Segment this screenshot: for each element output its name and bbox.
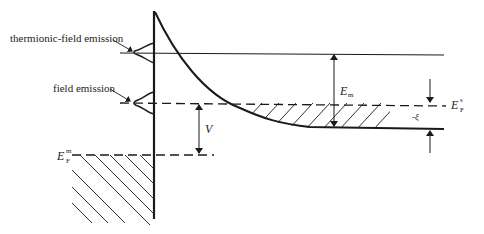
conduction-band-edge xyxy=(155,12,444,129)
xi-label: -ξ xyxy=(412,112,419,122)
thermionic-field-emission-label: thermionic-field emission xyxy=(10,32,124,44)
thermionic-level-line xyxy=(120,53,444,55)
svg-text:F: F xyxy=(460,106,464,114)
em-label: E m xyxy=(339,84,354,99)
v-label: V xyxy=(205,122,214,136)
svg-text:m: m xyxy=(348,91,354,99)
metal-filled-states-hatch xyxy=(72,155,210,225)
band-diagram: thermionic-field emission field emission… xyxy=(0,0,484,234)
svg-text:E: E xyxy=(450,98,459,112)
svg-text:E: E xyxy=(56,149,65,163)
field-emission-label: field emission xyxy=(53,82,116,94)
fermi-metal-label: E m F xyxy=(56,147,72,165)
svg-text:m: m xyxy=(66,147,72,155)
svg-text:s: s xyxy=(460,96,463,104)
svg-text:F: F xyxy=(66,157,70,165)
fermi-level-semiconductor-line xyxy=(120,103,446,106)
svg-text:E: E xyxy=(339,84,348,98)
fermi-semiconductor-label: E s F xyxy=(450,96,464,114)
